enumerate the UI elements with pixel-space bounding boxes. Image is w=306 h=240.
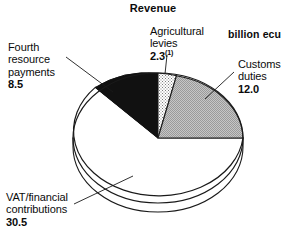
slice-value-number: 2.3	[150, 50, 165, 62]
slice-label-line1: Fourth	[8, 41, 55, 53]
slice-label-line1: Customs	[238, 58, 281, 70]
slice-label-agricultural-levies: Agricultural levies 2.3(1)	[150, 25, 204, 62]
slice-label-line3: payments	[8, 66, 55, 78]
slice-label-line1: VAT/financial	[6, 191, 68, 203]
footnote-marker: (1)	[165, 49, 173, 56]
leader-line-fourth-resource-payments	[66, 57, 113, 92]
slice-label-vat-financial-contributions: VAT/financial contributions 30.5	[6, 191, 68, 228]
slice-label-customs-duties: Customs duties 12.0	[238, 58, 281, 95]
slice-value-agricultural-levies: 2.3(1)	[150, 50, 204, 62]
slice-value-customs-duties: 12.0	[238, 83, 281, 95]
slice-label-line2: duties	[238, 70, 281, 82]
slice-value-vat-financial-contributions: 30.5	[6, 216, 68, 228]
slice-label-line2: resource	[8, 53, 55, 65]
slice-label-line1: Agricultural	[150, 25, 204, 37]
slice-value-fourth-resource-payments: 8.5	[8, 78, 55, 90]
pie-chart-figure: Revenue billion ecu	[0, 0, 306, 240]
slice-label-fourth-resource-payments: Fourth resource payments 8.5	[8, 41, 55, 91]
slice-label-line2: contributions	[6, 203, 68, 215]
slice-label-line2: levies	[150, 37, 204, 49]
